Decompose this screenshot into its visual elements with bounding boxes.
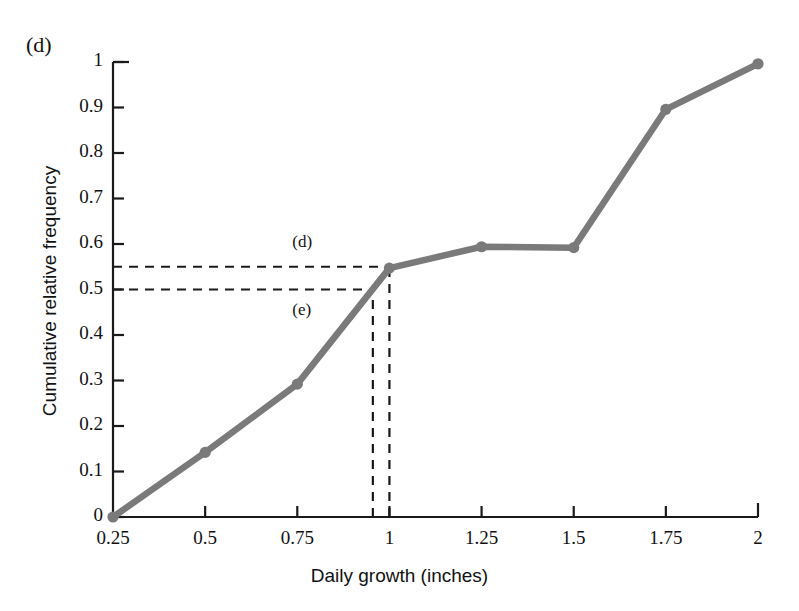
panel-label: (d) [26,32,52,58]
annotation-label-e: (e) [292,300,311,320]
x-tick-label: 1.75 [616,527,716,549]
y-tick-label: 0.9 [79,95,103,117]
y-tick-label: 0.6 [79,231,103,253]
x-tick-label: 0.5 [155,527,255,549]
y-tick-label: 0.7 [79,186,103,208]
x-tick-label: 0.75 [247,527,347,549]
y-tick-label: 1 [94,49,104,71]
y-tick-label: 0.5 [79,277,103,299]
y-tick-label: 0.4 [79,322,103,344]
data-point-markers [107,58,763,522]
x-tick-label: 1.25 [432,527,532,549]
y-axis-title: Cumulative relative frequency [39,91,61,491]
y-tick-label: 0.3 [79,368,103,390]
annotation-label-d: (d) [292,232,312,252]
chart-plot-area [0,0,799,611]
y-tick-label: 0.8 [79,140,103,162]
x-tick-label: 0.25 [63,527,163,549]
guide-lines [113,267,389,517]
x-axis-title: Daily growth (inches) [0,565,799,587]
y-tick-label: 0 [94,504,104,526]
x-tick-label: 1 [339,527,439,549]
y-tick-label: 0.1 [79,459,103,481]
figure-panel-d: (d) Cumulative relative frequency Daily … [0,0,799,611]
x-tick-label: 2 [708,527,799,549]
y-tick-label: 0.2 [79,413,103,435]
x-tick-label: 1.5 [524,527,624,549]
